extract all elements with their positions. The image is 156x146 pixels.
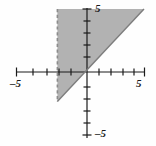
y-axis-label-positive-five: 5 bbox=[95, 3, 101, 14]
x-axis-label-negative-five: –5 bbox=[10, 78, 21, 89]
x-axis-label-positive-five: 5 bbox=[136, 78, 142, 89]
graph-figure: –5 5 5 –5 bbox=[0, 0, 156, 146]
coordinate-plane-plot bbox=[0, 0, 156, 146]
y-axis-label-negative-five: –5 bbox=[95, 128, 106, 139]
